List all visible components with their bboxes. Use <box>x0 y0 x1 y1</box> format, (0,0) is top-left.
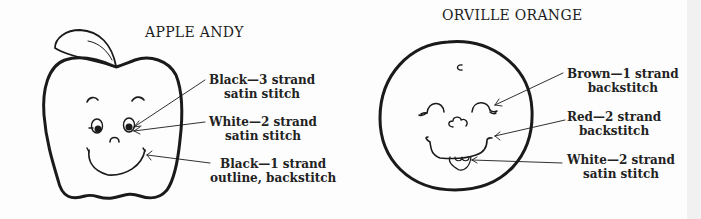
orange-callout-eyes-brown: Brown—1 strand backstitch <box>567 67 679 95</box>
apple-smile-icon <box>89 150 145 175</box>
apple-andy-title: APPLE ANDY <box>145 24 244 40</box>
orange-callout-teeth-white: White—2 strand satin stitch <box>567 153 675 181</box>
apple-outline-icon <box>44 58 182 198</box>
orville-orange-title: ORVILLE ORANGE <box>442 7 582 23</box>
apple-eyebrows-icon <box>87 97 144 102</box>
orange-leader-lines <box>472 73 565 163</box>
apple-callout-outline: Black—1 strand outline, backstitch <box>210 157 336 185</box>
apple-nose-icon <box>110 138 119 143</box>
orange-mouth-icon <box>426 137 492 159</box>
orange-nose-icon <box>449 117 467 127</box>
orange-navel-icon <box>458 65 463 70</box>
orange-eyes-icon <box>419 103 497 116</box>
apple-callout-eye-white: White—2 strand satin stitch <box>209 115 317 143</box>
apple-callout-eye-black: Black—3 strand satin stitch <box>209 73 315 101</box>
orange-callout-mouth-red: Red—2 strand backstitch <box>567 110 661 138</box>
